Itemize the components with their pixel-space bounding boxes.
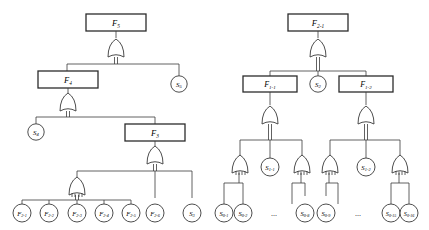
or-gate-F1-1 [262, 106, 278, 124]
or-gate-F3 [147, 146, 163, 164]
or-gate-C [322, 155, 338, 173]
or-gate-B [294, 155, 310, 173]
or-gate-F4 [60, 93, 76, 111]
or-gate-D [392, 155, 408, 173]
or-gate-F1-2 [358, 106, 374, 124]
or-gate-A [232, 155, 248, 173]
or-gate-F5 [108, 39, 124, 57]
fault-tree-diagram: F5 F4 S5 S4 F3 [0, 0, 429, 230]
fault-tree-canvas: F5 F4 S5 S4 F3 [0, 0, 429, 230]
or-gate-F2-1-root [310, 39, 326, 57]
ellipsis-left: ... [271, 209, 277, 218]
ellipsis-right: ... [355, 209, 361, 218]
or-gate-F2-group [69, 177, 85, 195]
